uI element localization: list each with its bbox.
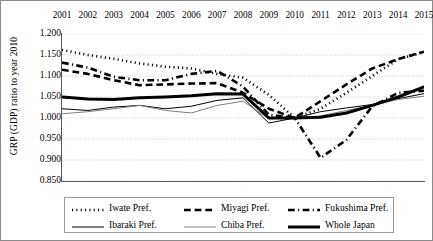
legend-item-fukushima-pref[interactable]: Fukushima Pref. <box>287 199 388 217</box>
legend-label: Chiba Pref. <box>221 220 265 230</box>
legend-label: Ibaraki Pref. <box>109 220 157 230</box>
x-tick-label: 2001 <box>53 10 72 20</box>
legend-item-chiba-pref[interactable]: Chiba Pref. <box>183 216 265 234</box>
x-axis-tick-labels: 2001200220032004200520062007200820092010… <box>62 10 424 24</box>
legend-label: Iwate Pref. <box>109 203 151 213</box>
chart-legend: Iwate Pref.Miyagi Pref.Fukushima Pref.Ib… <box>64 197 394 233</box>
legend-swatch-icon <box>183 219 217 231</box>
x-tick-label: 2012 <box>337 10 356 20</box>
legend-item-miyagi-pref[interactable]: Miyagi Pref. <box>183 199 270 217</box>
x-tick-label: 2010 <box>285 10 304 20</box>
y-tick-label: 1.100 <box>40 71 61 81</box>
x-tick-label: 2007 <box>208 10 227 20</box>
x-tick-label: 2013 <box>363 10 382 20</box>
legend-label: Miyagi Pref. <box>221 203 270 213</box>
y-tick-label: 1.000 <box>40 113 61 123</box>
legend-label: Whole Japan <box>325 220 375 230</box>
legend-item-ibaraki-pref[interactable]: Ibaraki Pref. <box>71 216 157 234</box>
legend-label: Fukushima Pref. <box>325 203 388 213</box>
plot-area <box>62 34 424 181</box>
x-tick-label: 2006 <box>182 10 201 20</box>
legend-swatch-icon <box>71 219 105 231</box>
legend-swatch-icon <box>183 202 217 214</box>
x-tick-label: 2014 <box>389 10 408 20</box>
y-tick-label: 0.950 <box>40 134 61 144</box>
legend-swatch-icon <box>287 202 321 214</box>
y-tick-label: 1.150 <box>40 50 61 60</box>
x-tick-label: 2004 <box>130 10 149 20</box>
plot-svg <box>62 34 424 181</box>
legend-row: Iwate Pref.Miyagi Pref.Fukushima Pref. <box>65 199 393 217</box>
x-tick-label: 2003 <box>104 10 123 20</box>
x-tick-label: 2009 <box>260 10 279 20</box>
y-axis-tick-labels: 0.8500.9000.9501.0001.0501.1001.1501.200 <box>21 25 61 187</box>
x-tick-label: 2008 <box>234 10 253 20</box>
y-tick-label: 0.850 <box>40 176 61 186</box>
y-tick-label: 0.900 <box>40 155 61 165</box>
y-tick-label: 1.200 <box>40 29 61 39</box>
legend-row: Ibaraki Pref.Chiba Pref.Whole Japan <box>65 216 393 234</box>
x-tick-label: 2005 <box>156 10 175 20</box>
x-tick-label: 2015 <box>415 10 433 20</box>
legend-swatch-icon <box>287 219 321 231</box>
legend-item-iwate-pref[interactable]: Iwate Pref. <box>71 199 151 217</box>
legend-item-whole-japan[interactable]: Whole Japan <box>287 216 375 234</box>
y-tick-label: 1.050 <box>40 92 61 102</box>
x-tick-label: 2011 <box>311 10 329 20</box>
y-axis-title-text: GRP (GDP) ratio to year 2010 <box>9 37 19 155</box>
x-axis-line <box>61 181 425 182</box>
legend-swatch-icon <box>71 202 105 214</box>
x-tick-label: 2002 <box>79 10 98 20</box>
grp-ratio-line-chart: GRP (GDP) ratio to year 2010 0.8500.9000… <box>0 0 433 241</box>
